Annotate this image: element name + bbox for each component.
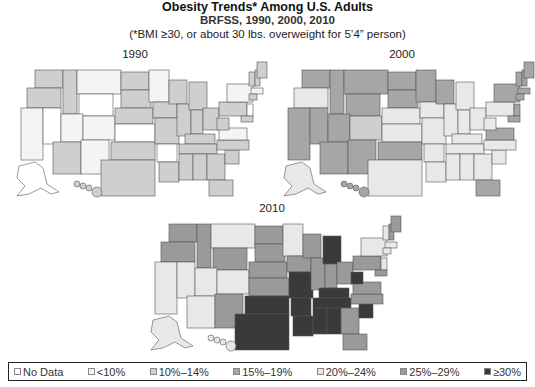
state-hi (214, 337, 220, 343)
state-hi (86, 185, 92, 191)
swatch-15-19 (233, 368, 240, 375)
state-hi (341, 181, 347, 187)
state-id (330, 70, 344, 114)
state-mo (155, 118, 179, 144)
state-nc (217, 140, 249, 150)
map-1990: 1990 (5, 48, 265, 198)
state-hi (359, 187, 369, 197)
state-ut (328, 114, 350, 142)
state-nv (310, 108, 328, 144)
state-ok (245, 296, 289, 314)
state-pa (486, 102, 514, 116)
map-2010: 2010 (137, 202, 407, 357)
state-tn (446, 144, 484, 154)
state-sc (359, 304, 373, 318)
state-me (524, 62, 534, 78)
legend-item-15-19: 15%–19% (233, 366, 292, 378)
state-ga (207, 154, 225, 180)
map-year-label: 1990 (5, 48, 265, 60)
legend: No Data <10% 10%–14% 15%–19% 20%–24% 25%… (8, 362, 527, 381)
map-2000: 2000 (272, 48, 532, 198)
state-in (458, 110, 470, 134)
legend-item-gte30: ≥30% (484, 366, 521, 378)
state-wi (169, 80, 187, 104)
state-mn (149, 70, 169, 102)
state-nj (381, 258, 387, 270)
state-vt (383, 226, 389, 240)
state-id (63, 70, 77, 114)
legend-label: <10% (97, 366, 125, 378)
state-mi (456, 82, 474, 110)
state-wy (79, 94, 113, 116)
state-nj (247, 104, 253, 116)
state-ak (151, 316, 193, 350)
state-mt (77, 70, 121, 94)
state-mn (283, 224, 303, 256)
state-ia (153, 102, 177, 118)
state-wy (213, 248, 247, 270)
state-wa (35, 70, 63, 88)
state-hi (226, 341, 236, 351)
legend-label: 15%–19% (242, 366, 292, 378)
us-map-2000 (280, 62, 530, 197)
state-tx (235, 314, 289, 350)
state-pa (219, 102, 247, 116)
state-ca (21, 108, 43, 160)
state-wv (217, 118, 229, 130)
state-hi (353, 185, 359, 191)
state-wa (169, 224, 197, 242)
state-nv (43, 108, 61, 144)
state-pa (353, 256, 381, 270)
state-mi (189, 82, 207, 110)
state-or (161, 242, 195, 262)
state-ne (115, 108, 153, 124)
chart-header: Obesity Trends* Among U.S. Adults BRFSS,… (0, 0, 535, 41)
chart-title: Obesity Trends* Among U.S. Adults (0, 1, 535, 14)
state-ne (382, 108, 420, 124)
state-ma (518, 88, 530, 94)
state-hi (80, 183, 86, 189)
legend-item-20-24: 20%–24% (317, 366, 376, 378)
state-ut (195, 268, 217, 296)
state-hi (208, 335, 214, 341)
state-ok (378, 142, 422, 160)
state-ct (249, 94, 257, 100)
state-tn (179, 144, 217, 154)
state-al (193, 154, 207, 180)
state-md (508, 116, 520, 122)
state-tx (101, 160, 155, 196)
state-mo (289, 272, 313, 298)
state-ok (111, 142, 155, 160)
state-hi (74, 181, 80, 187)
state-ga (341, 308, 359, 334)
state-vt (249, 72, 255, 86)
chart-subtitle: BRFSS, 1990, 2000, 2010 (0, 14, 535, 27)
state-la (293, 316, 313, 336)
state-sc (492, 150, 506, 164)
us-map-2010 (147, 216, 397, 351)
state-az (187, 296, 215, 328)
state-ct (516, 94, 524, 100)
state-ms (179, 154, 193, 180)
state-me (391, 216, 401, 232)
legend-item-10-14: 10%–14% (150, 366, 209, 378)
state-vt (516, 72, 522, 86)
swatch-25-29 (400, 368, 407, 375)
state-hi (220, 339, 226, 345)
state-sd (255, 244, 285, 262)
state-wv (351, 272, 363, 284)
state-ca (288, 108, 310, 160)
state-id (197, 224, 211, 268)
state-nc (351, 294, 383, 304)
state-ky (452, 134, 482, 144)
state-mi (323, 236, 341, 264)
state-ct (383, 248, 391, 254)
state-oh (337, 262, 353, 284)
state-ar (424, 144, 444, 162)
state-in (325, 264, 337, 288)
state-ms (446, 154, 460, 180)
state-or (27, 88, 61, 108)
chart-footnote: (*BMI ≥30, or about 30 lbs. overweight f… (0, 27, 535, 41)
state-mt (344, 70, 388, 94)
state-ca (155, 262, 177, 314)
